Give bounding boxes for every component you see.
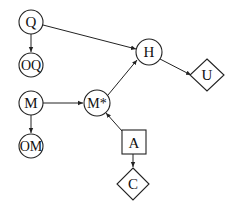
node-om-label: OM [20, 139, 43, 154]
node-m: M [19, 91, 43, 115]
node-om: OM [19, 134, 43, 158]
edge-a-mstar [106, 113, 122, 131]
node-q-label: Q [26, 14, 37, 30]
node-m-label: M [24, 95, 37, 111]
node-a-label: A [129, 135, 140, 151]
node-oq: OQ [19, 53, 43, 77]
edge-q-h [43, 25, 136, 49]
node-mstar: M* [84, 90, 110, 116]
node-a: A [122, 130, 146, 154]
node-oq-label: OQ [21, 58, 41, 73]
edge-h-u [160, 59, 191, 75]
node-mstar-label: M* [87, 96, 106, 111]
node-q: Q [19, 10, 43, 34]
node-u: U [190, 59, 224, 91]
node-c-label: C [128, 176, 138, 192]
influence-diagram: Q OQ M OM M* H U A C [0, 0, 234, 208]
node-h-label: H [144, 44, 155, 60]
node-u-label: U [202, 67, 213, 83]
node-h: H [136, 39, 162, 65]
node-c: C [117, 168, 149, 200]
edge-mstar-h [108, 60, 137, 95]
